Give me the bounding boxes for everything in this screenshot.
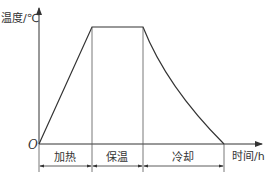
phase-label-heating: 加热 (54, 151, 76, 164)
origin-label: O (28, 138, 38, 152)
temperature-curve (39, 27, 224, 144)
heat-treatment-diagram: 温度/℃ 时间/h O 加热 保温 冷却 (0, 0, 274, 188)
y-axis-label: 温度/℃ (1, 11, 39, 25)
phase-label-cooling: 冷却 (172, 151, 194, 164)
phase-label-holding: 保温 (106, 150, 128, 164)
x-axis-label: 时间/h (232, 150, 265, 163)
